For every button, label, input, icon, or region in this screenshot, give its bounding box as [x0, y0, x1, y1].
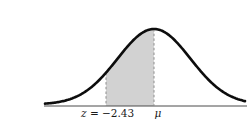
normal-curve-figure: z = −2.43 μ	[40, 16, 251, 123]
mu-label: μ	[155, 107, 162, 119]
z-value-label: z = −2.43	[80, 107, 134, 119]
z-value-text: = −2.43	[87, 107, 135, 119]
mu-symbol: μ	[155, 107, 162, 119]
shaded-area	[106, 29, 154, 106]
normal-distribution-chart: z = −2.43 μ	[40, 16, 251, 123]
